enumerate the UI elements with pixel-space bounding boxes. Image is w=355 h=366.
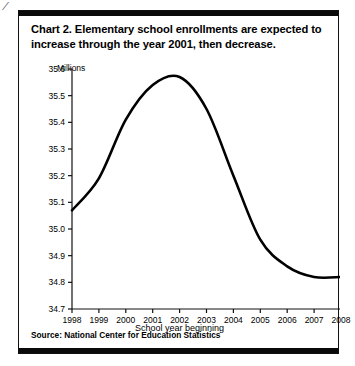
y-tick-label: 35.2 [39, 171, 65, 181]
enrollment-line-series [72, 76, 340, 278]
chart-svg [19, 11, 340, 355]
y-tick-label: 34.9 [39, 251, 65, 261]
y-tick-label: 34.7 [39, 304, 65, 314]
y-tick-label: 35.6 [39, 64, 65, 74]
chart-figure: Chart 2.Elementary school enrollments ar… [18, 10, 339, 354]
y-tick-label: 35.5 [39, 91, 65, 101]
y-tick-label: 35.0 [39, 224, 65, 234]
y-tick-label: 34.8 [39, 277, 65, 287]
plot-area: 34.734.834.935.035.135.235.335.435.535.6… [19, 11, 340, 355]
page-corner-mark: ⁄ [5, 0, 7, 12]
y-tick-label: 35.3 [39, 144, 65, 154]
source-note: Source: National Center for Education St… [31, 330, 220, 340]
y-tick-label: 35.4 [39, 117, 65, 127]
y-tick-label: 35.1 [39, 197, 65, 207]
